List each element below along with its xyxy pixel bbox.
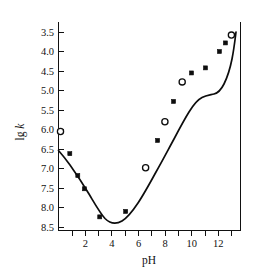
data-point-filled [82,187,86,191]
x-tick-label: 8 [162,238,167,249]
data-curve [59,32,237,223]
y-tick-label: 8.5 [41,222,54,233]
chart-plot-area: 3.5 4.0 4.5 5.0 5.5 6.0 6.5 7.0 7.5 8.0 … [0,0,257,280]
y-axis-tick-labels: 3.5 4.0 4.5 5.0 5.5 6.0 6.5 7.0 7.5 8.0 … [41,27,54,233]
x-tick-label: 10 [186,238,197,249]
y-tick-label: 3.5 [41,27,54,38]
x-tick-label: 2 [83,238,88,249]
y-tick-label: 6.5 [41,144,54,155]
x-axis-tick-labels: 2 4 6 8 10 12 [83,238,224,249]
data-point-filled [124,209,128,213]
data-point-filled [223,41,227,45]
data-point-filled [203,66,207,70]
data-point-filled [76,174,80,178]
y-tick-label: 7.5 [41,183,54,194]
chart-figure: 3.5 4.0 4.5 5.0 5.5 6.0 6.5 7.0 7.5 8.0 … [0,0,257,280]
data-point-filled [217,50,221,54]
x-axis-title: pH [142,254,156,267]
y-tick-label: 6.0 [41,124,54,135]
y-tick-label: 8.0 [41,202,54,213]
data-point-open [228,32,234,38]
x-tick-label: 6 [136,238,141,249]
data-point-open [57,128,63,134]
data-point-filled [98,215,102,219]
y-tick-label: 4.0 [41,46,54,57]
y-axis-title-lead: lg [14,129,27,141]
y-tick-label: 4.5 [41,66,54,77]
data-point-open [162,119,168,125]
data-point-filled [190,71,194,75]
x-tick-label: 12 [213,238,224,249]
y-axis-title-italic: k [14,123,26,129]
y-axis-title: lg k [14,123,27,141]
y-tick-label: 5.0 [41,85,54,96]
data-point-filled [156,138,160,142]
x-axis-ticks [72,231,232,236]
y-tick-label: 7.0 [41,163,54,174]
y-tick-label: 5.5 [41,105,54,116]
data-point-open [179,79,185,85]
data-point-open [143,165,149,171]
data-point-filled [172,99,176,103]
svg-text:lg k: lg k [14,123,27,141]
data-point-filled [68,152,72,156]
x-tick-label: 4 [109,238,115,249]
